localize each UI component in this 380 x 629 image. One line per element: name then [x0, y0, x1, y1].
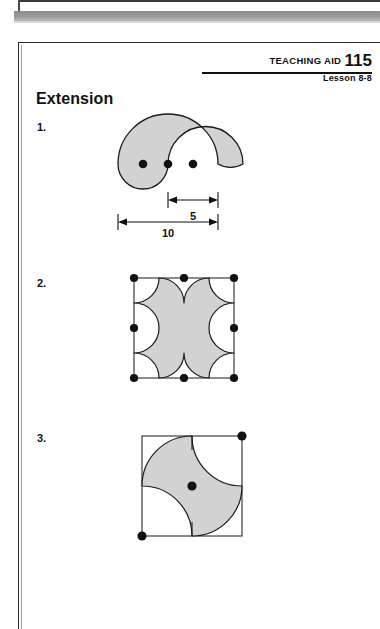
page-title: Extension [36, 90, 113, 108]
figure-3-dot-center [187, 481, 196, 490]
page-left-rule-inner [21, 45, 22, 629]
figure-2-dot-mid-top [180, 274, 188, 282]
figure-2-dot-mid-bottom [180, 374, 188, 382]
figure-2-dot-corner-tr [230, 274, 238, 282]
square-with-scalloped-arcs-figure [128, 272, 240, 384]
figure-2-svg [128, 272, 240, 384]
scan-shadow-band [14, 11, 380, 21]
scan-previous-page-edge [18, 0, 380, 2]
page-left-rule [18, 42, 19, 629]
figure-2-dot-mid-right [230, 324, 238, 332]
teaching-aid-line: TEACHING AID 115 [269, 52, 372, 69]
figure-2-dot-corner-br [230, 374, 238, 382]
dimension-5: 5 [168, 192, 218, 222]
figure-3-svg [136, 428, 248, 544]
item-number-3: 3. [37, 432, 46, 444]
lesson-label: Lesson 8-8 [269, 73, 372, 83]
header-underline-rule [202, 72, 372, 74]
figure-1-shape [118, 114, 243, 189]
dimension-5-label: 5 [190, 210, 196, 222]
figure-1-svg: 5 10 [108, 112, 268, 237]
figure-1-dot-left [139, 160, 148, 169]
scan-shadow-band-falloff [14, 21, 380, 23]
yin-yang-spiral-figure: 5 10 [108, 112, 268, 237]
dimension-10: 10 [118, 214, 218, 237]
figure-2-dot-corner-tl [130, 274, 138, 282]
item-number-2: 2. [37, 277, 46, 289]
figure-2-dot-mid-left [130, 324, 138, 332]
teaching-aid-number: 115 [345, 51, 372, 70]
figure-1-dot-right [189, 160, 198, 169]
page-top-rule [18, 42, 380, 43]
figure-2-dot-corner-bl [130, 374, 138, 382]
square-with-pinwheel-figure [136, 428, 248, 544]
figure-1-dot-center [164, 160, 173, 169]
dimension-10-label: 10 [162, 227, 174, 237]
figure-3-dot-corner-tr [237, 431, 246, 440]
figure-3-dot-corner-bl [137, 531, 146, 540]
teaching-aid-label: TEACHING AID [269, 55, 341, 66]
page-header: TEACHING AID 115 Lesson 8-8 [269, 52, 372, 83]
worksheet-page: TEACHING AID 115 Lesson 8-8 Extension 1. [0, 0, 380, 629]
item-number-1: 1. [37, 121, 46, 133]
